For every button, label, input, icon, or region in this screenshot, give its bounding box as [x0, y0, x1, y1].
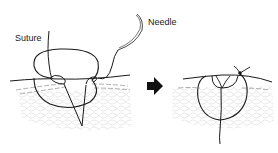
suture-inner-arc-after [216, 76, 230, 88]
needle-label: Needle [148, 18, 177, 27]
right-arrow-icon [147, 77, 163, 95]
knot-icon [234, 66, 250, 75]
panel-before [10, 14, 142, 131]
panel-after [172, 66, 274, 144]
needle-icon [118, 14, 142, 50]
skin-surface-line [10, 75, 130, 81]
suture-strand [48, 31, 52, 79]
suture-diagram: Suture Needle [0, 0, 278, 153]
suture-inner-left [50, 75, 65, 84]
subcutaneous-tissue-after [172, 86, 274, 128]
suture-label: Suture [15, 34, 42, 43]
suture-to-needle [98, 50, 118, 79]
diagram-drawing [0, 0, 278, 153]
